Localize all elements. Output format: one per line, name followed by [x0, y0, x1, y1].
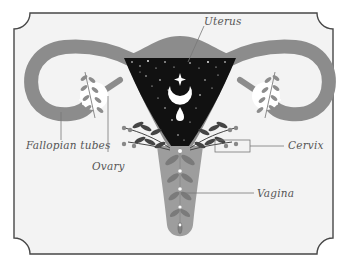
- reproductive-diagram: Uterus Fallopian tubes Ovary Cervix Vagi…: [0, 0, 360, 266]
- label-ovary: Ovary: [92, 160, 125, 172]
- label-uterus: Uterus: [204, 15, 242, 27]
- label-cervix: Cervix: [288, 139, 324, 151]
- label-vagina: Vagina: [257, 187, 294, 199]
- label-fallopian-tubes: Fallopian tubes: [26, 139, 111, 151]
